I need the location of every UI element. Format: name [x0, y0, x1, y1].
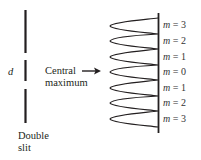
order-label: m = 3	[163, 20, 186, 30]
intensity-pattern	[110, 18, 158, 127]
double-slit-interference-diagram: d Central maximum Double slit m = 3 m = …	[0, 0, 201, 160]
slit-separation-label: d	[8, 66, 13, 77]
order-label: m = 2	[163, 36, 186, 46]
central-maximum-label-line1: Central	[45, 65, 76, 76]
double-slit-label-line1: Double	[18, 130, 49, 141]
order-label: m = 0	[163, 67, 186, 77]
arrow-right-icon	[82, 68, 101, 75]
order-label: m = 3	[163, 114, 186, 124]
order-label: m = 1	[163, 83, 186, 93]
double-slit-label-line2: slit	[18, 142, 31, 153]
central-maximum-label-line2: maximum	[45, 77, 88, 88]
order-label: m = 1	[163, 52, 186, 62]
order-label: m = 2	[163, 98, 186, 108]
